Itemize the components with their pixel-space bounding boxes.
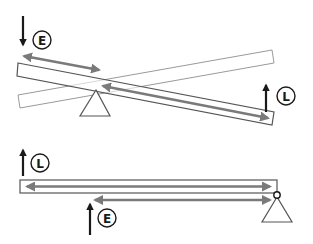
bottom-pivot-circle [274,192,280,198]
bottom-lever: L E [20,150,292,235]
top-lever: E L [17,16,295,125]
top-load-label: L [282,90,290,104]
top-fulcrum-triangle [80,90,110,116]
lever-diagram: E L L E [0,0,313,244]
top-effort-label: E [38,34,46,48]
bottom-effort-label: E [103,212,111,226]
top-load-arm-arrow [103,86,268,118]
bottom-load-label: L [36,157,44,171]
